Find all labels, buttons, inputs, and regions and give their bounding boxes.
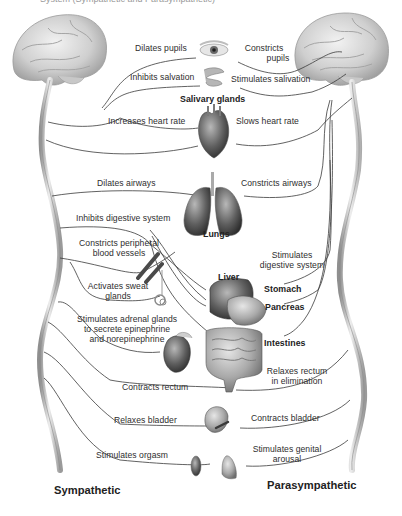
label-contracts-rectum: Contracts rectum: [122, 382, 188, 392]
label-stomach: Stomach: [264, 284, 302, 294]
lungs-icon: [184, 172, 242, 235]
autonomic-nervous-system-diagram: System (Sympathetic and Parasympathetic): [0, 0, 402, 516]
label-stimulates: Stimulates: [252, 250, 332, 260]
spinal-cord-left: [40, 80, 60, 470]
label-constricts: Constricts: [232, 43, 296, 53]
spinal-cord-right: [340, 82, 364, 470]
label-slows-heart-rate: Slows heart rate: [236, 116, 299, 126]
label-pancreas: Pancreas: [265, 302, 305, 312]
bladder-icon: [205, 407, 228, 433]
label-constricts-airways: Constricts airways: [241, 178, 312, 188]
intestines-icon: [206, 328, 262, 392]
diagram-graphics: [0, 0, 402, 516]
label-stimulates-orgasm: Stimulates orgasm: [96, 450, 168, 460]
label-constricts-peripheral: Constricts peripheral: [75, 238, 163, 248]
label-in-elimination: in elimination: [262, 376, 332, 386]
title-sympathetic: Sympathetic: [54, 484, 121, 496]
label-glands: glands: [85, 291, 151, 301]
label-salivary-glands: Salivary glands: [180, 94, 245, 104]
title-parasympathetic: Parasympathetic: [267, 479, 357, 491]
label-increases-heart-rate: Increases heart rate: [108, 116, 185, 126]
label-relaxes-bladder: Relaxes bladder: [114, 415, 177, 425]
salivary-glands-icon: [204, 68, 224, 86]
label-pupils: pupils: [246, 53, 310, 63]
label-lungs: Lungs: [203, 229, 230, 239]
eye-icon: [200, 41, 228, 56]
label-blood-vessels: blood vessels: [75, 248, 163, 258]
label-norepinephrine: and norepinephrine: [77, 334, 177, 344]
label-secrete-epinephrine: to secrete epinephrine: [77, 324, 177, 334]
brain-left-icon: [13, 15, 107, 85]
genitals-icon: [191, 456, 236, 479]
label-relaxes-rectum: Relaxes rectum: [262, 366, 332, 376]
label-contracts-bladder: Contracts bladder: [251, 413, 320, 423]
label-liver: Liver: [218, 272, 239, 282]
label-arousal: arousal: [246, 454, 328, 464]
label-inhibits-digestive-system: Inhibits digestive system: [76, 213, 170, 223]
label-activates-sweat: Activates sweat: [85, 281, 151, 291]
label-digestive-system: digestive system: [252, 260, 332, 270]
label-stimulates-salivation: Stimulates salivation: [231, 74, 310, 84]
sweat-gland-icon: [155, 270, 166, 305]
heart-icon: [199, 104, 229, 158]
label-stimulates-adrenal: Stimulates adrenal glands: [77, 314, 177, 324]
label-dilates-airways: Dilates airways: [97, 178, 156, 188]
label-intestines: Intestines: [264, 338, 306, 348]
label-stimulates-genital: Stimulates genital: [246, 444, 328, 454]
label-inhibits-salivation: Inhibits salvation: [130, 72, 194, 82]
label-dilates-pupils: Dilates pupils: [135, 43, 187, 53]
liver-stomach-pancreas-icon: [210, 279, 266, 326]
